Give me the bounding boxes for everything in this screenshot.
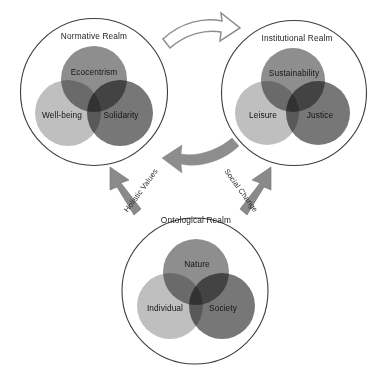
realm-institutional-title: Institutional Realm <box>261 33 332 43</box>
venn-label-top: Ecocentrism <box>71 67 118 77</box>
flow-normative-to-institutional[interactable] <box>163 13 240 48</box>
realm-ontological[interactable]: Ontological Realm Nature Individual Soci… <box>122 215 268 364</box>
curved-arrow-right-icon <box>163 13 240 48</box>
venn-label-top: Sustainability <box>269 68 320 78</box>
diagram-canvas: Normative Realm Ecocentrism Well-being S… <box>0 0 387 375</box>
venn-label-right: Society <box>209 303 238 313</box>
realm-ontological-title: Ontological Realm <box>161 215 231 225</box>
realm-institutional[interactable]: Institutional Realm Sustainability Leisu… <box>222 21 367 166</box>
flow-holistic-values[interactable]: Holistic Values <box>110 167 160 215</box>
realm-normative-title: Normative Realm <box>61 31 127 41</box>
flow-social-change[interactable]: Social Change <box>222 167 271 215</box>
flow-holistic-values-label: Holistic Values <box>122 167 160 214</box>
venn-label-right: Solidarity <box>103 110 139 120</box>
realm-normative[interactable]: Normative Realm Ecocentrism Well-being S… <box>21 19 168 166</box>
venn-label-left: Individual <box>147 303 183 313</box>
venn-label-top: Nature <box>184 259 210 269</box>
venn-label-left: Well-being <box>42 110 82 120</box>
venn-label-right: Justice <box>307 110 334 120</box>
venn-label-left: Leisure <box>249 110 277 120</box>
three-realms-diagram: Normative Realm Ecocentrism Well-being S… <box>0 0 387 375</box>
